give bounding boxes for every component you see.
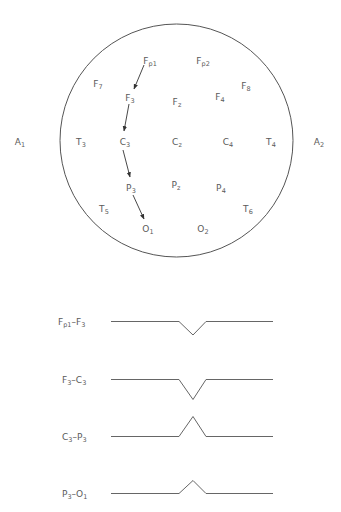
electrode-subscript: z (178, 101, 182, 109)
trace-waveform (111, 417, 273, 437)
eeg-diagram (0, 0, 341, 512)
electrode-subscript: 3 (126, 141, 130, 149)
trace-label: Fp1–F3 (58, 317, 85, 327)
electrode-subscript: 3 (82, 141, 86, 149)
electrode-p4: P4 (216, 183, 226, 193)
electrode-subscript: 3 (131, 97, 135, 105)
trace-label: P3–O1 (62, 489, 87, 499)
electrode-o1: O1 (142, 224, 153, 234)
electrode-subscript: 2 (320, 141, 324, 149)
electrode-t3: T3 (76, 137, 86, 147)
label-subscript: 1 (83, 493, 87, 501)
electrode-subscript: 8 (247, 85, 251, 93)
label-subscript: 3 (81, 321, 85, 329)
eeg-traces (111, 322, 273, 494)
electrode-cz: Cz (172, 137, 182, 147)
electrode-a1: A1 (15, 137, 26, 147)
electrode-c3: C3 (120, 137, 131, 147)
electrode-subscript: z (177, 184, 181, 192)
electrode-subscript: 2 (204, 228, 208, 236)
trace-label: C3–P3 (62, 432, 87, 442)
arrow-p3-to-o1 (133, 195, 144, 219)
trace-waveform (111, 322, 273, 336)
electrode-t6: T6 (243, 204, 253, 214)
electrode-subscript: p2 (201, 60, 209, 68)
arrow-c3-to-p3 (123, 150, 130, 177)
electrode-pz: Pz (171, 180, 180, 190)
electrode-a2: A2 (314, 137, 325, 147)
trace-waveform (111, 380, 273, 400)
electrode-f4: F4 (215, 92, 225, 102)
electrode-o2: O2 (197, 224, 208, 234)
electrode-subscript: z (178, 141, 182, 149)
electrode-p3: P3 (126, 183, 136, 193)
electrode-subscript: 4 (272, 141, 276, 149)
electrode-subscript: p1 (148, 60, 156, 68)
electrode-fp1: Fp1 (143, 56, 157, 66)
arrow-fp1-to-f3 (134, 65, 144, 89)
electrode-fp2: Fp2 (196, 56, 210, 66)
electrode-subscript: 3 (132, 187, 136, 195)
arrow-f3-to-c3 (124, 104, 129, 131)
electrode-t5: T5 (99, 204, 109, 214)
electrode-f7: F7 (93, 79, 103, 89)
electrode-subscript: 7 (99, 83, 103, 91)
label-subscript: 3 (82, 379, 86, 387)
label-subscript: 3 (82, 436, 86, 444)
electrode-subscript: 4 (222, 187, 226, 195)
electrode-f8: F8 (241, 81, 251, 91)
electrode-subscript: 1 (149, 228, 153, 236)
electrode-subscript: 4 (221, 96, 225, 104)
electrode-subscript: 5 (105, 208, 109, 216)
trace-waveform (111, 481, 273, 494)
electrode-subscript: 6 (249, 208, 253, 216)
trace-label: F3–C3 (62, 375, 86, 385)
electrode-subscript: 1 (21, 141, 25, 149)
electrode-c4: C4 (223, 137, 234, 147)
electrode-t4: T4 (266, 137, 276, 147)
electrode-fz: Fz (173, 97, 182, 107)
electrode-f3: F3 (125, 93, 135, 103)
electrode-subscript: 4 (229, 141, 233, 149)
